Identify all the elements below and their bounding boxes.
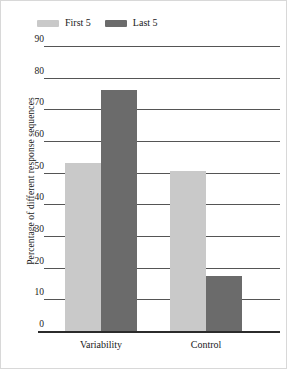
legend-entry-first-5: First 5	[37, 18, 91, 28]
bar-chart-figure: First 5 Last 5 Percentage of different r…	[0, 0, 287, 369]
gridline-90	[44, 46, 280, 47]
gridline-70	[44, 109, 280, 110]
y-tick-label-30: 30	[26, 225, 44, 235]
x-tick-label-control: Control	[154, 340, 258, 350]
y-tick-label-40: 40	[26, 193, 44, 203]
x-tick-label-variability: Variability	[49, 340, 153, 350]
legend-swatch-first-5	[37, 20, 59, 27]
y-tick-label-70: 70	[26, 98, 44, 108]
chart-legend: First 5 Last 5	[37, 18, 158, 28]
y-tick-label-80: 80	[26, 67, 44, 77]
gridline-60	[44, 141, 280, 142]
legend-label-first-5: First 5	[65, 18, 91, 28]
bar-control-first-5	[170, 171, 206, 331]
plot-area: 0102030405060708090VariabilityControl	[38, 46, 280, 338]
legend-swatch-last-5	[105, 20, 127, 27]
y-tick-label-20: 20	[26, 257, 44, 267]
bar-variability-last-5	[101, 90, 137, 331]
y-tick-label-0: 0	[26, 320, 44, 330]
legend-label-last-5: Last 5	[133, 18, 158, 28]
gridline-80	[44, 78, 280, 79]
bar-control-last-5	[206, 276, 242, 331]
y-tick-label-60: 60	[26, 130, 44, 140]
y-tick-label-90: 90	[26, 35, 44, 45]
bar-variability-first-5	[65, 163, 101, 331]
y-tick-label-50: 50	[26, 162, 44, 172]
legend-entry-last-5: Last 5	[105, 18, 158, 28]
y-tick-label-10: 10	[26, 288, 44, 298]
x-axis-baseline	[38, 331, 280, 333]
